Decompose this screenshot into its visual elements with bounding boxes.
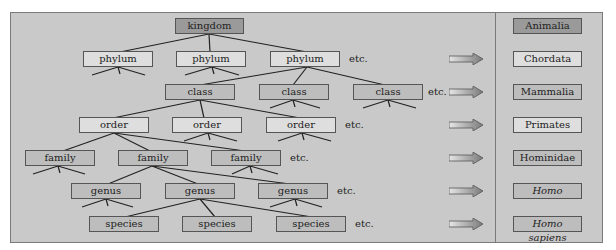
phylum-node: phylum bbox=[176, 51, 246, 67]
phylum-node: phylum bbox=[83, 51, 153, 67]
species-node: species bbox=[182, 216, 252, 232]
kingdom-node: kingdom bbox=[175, 18, 244, 34]
arrow-right-icon bbox=[449, 119, 483, 131]
order-node: order bbox=[172, 117, 242, 133]
arrow-right-icon bbox=[449, 53, 483, 65]
example-genus: Homo bbox=[513, 183, 582, 199]
example-phylum: Chordata bbox=[513, 51, 582, 67]
etc-label: etc. bbox=[337, 184, 356, 198]
class-node: class bbox=[165, 84, 235, 100]
class-node: class bbox=[353, 84, 423, 100]
family-node: family bbox=[211, 150, 281, 166]
species-node: species bbox=[89, 216, 159, 232]
example-order: Primates bbox=[513, 117, 582, 133]
etc-label: etc. bbox=[355, 217, 374, 231]
genus-node: genus bbox=[71, 183, 141, 199]
arrow-right-icon bbox=[449, 185, 483, 197]
genus-node: genus bbox=[165, 183, 235, 199]
arrow-right-icon bbox=[449, 152, 483, 164]
family-node: family bbox=[118, 150, 188, 166]
example-class: Mammalia bbox=[513, 84, 582, 100]
family-node: family bbox=[25, 150, 95, 166]
etc-label: etc. bbox=[349, 52, 368, 66]
etc-label: etc. bbox=[290, 151, 309, 165]
arrow-right-icon bbox=[449, 218, 483, 230]
genus-node: genus bbox=[258, 183, 328, 199]
etc-label: etc. bbox=[428, 85, 447, 99]
phylum-node: phylum bbox=[270, 51, 340, 67]
arrow-right-icon bbox=[449, 86, 483, 98]
example-kingdom: Animalia bbox=[513, 18, 582, 34]
order-node: order bbox=[79, 117, 149, 133]
example-species: Homo sapiens bbox=[513, 216, 582, 232]
species-node: species bbox=[276, 216, 346, 232]
order-node: order bbox=[266, 117, 336, 133]
etc-label: etc. bbox=[345, 118, 364, 132]
example-family: Hominidae bbox=[513, 150, 582, 166]
class-node: class bbox=[259, 84, 329, 100]
